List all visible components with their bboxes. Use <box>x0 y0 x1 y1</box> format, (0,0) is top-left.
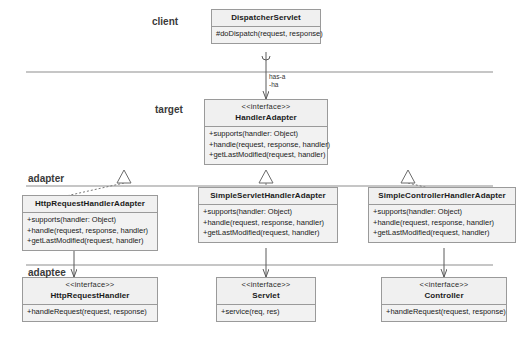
class-member: +supports(handler: Object) <box>203 207 333 218</box>
realization-triangle-middle <box>259 170 273 183</box>
class-box-simple-controller-handler-adapter[interactable]: SimpleControllerHandlerAdapter +supports… <box>368 187 516 243</box>
class-member: #doDispatch(request, response) <box>216 29 316 40</box>
edge-label-has-a-line1: has-a <box>269 73 285 81</box>
edge-label-has-a-line2: -ha <box>269 81 285 89</box>
class-box-servlet[interactable]: <<interface>> Servlet +service(req, res) <box>216 277 316 322</box>
class-member: +handle(request, response, handler) <box>209 140 323 151</box>
class-name-simple-servlet-handler-adapter: SimpleServletHandlerAdapter <box>203 190 333 201</box>
class-stereotype-controller: <<interface>> <box>386 280 502 290</box>
class-stereotype-handler-adapter: <<interface>> <box>209 102 323 112</box>
class-stereotype-http-request-handler: <<interface>> <box>27 280 153 290</box>
realization-triangle-left <box>117 170 131 183</box>
class-header-http-request-handler-adapter: HttpRequestHandlerAdapter <box>23 196 157 212</box>
class-header-http-request-handler: <<interface>> HttpRequestHandler <box>23 278 157 304</box>
class-member: +handle(request, response, handler) <box>373 218 511 229</box>
class-box-controller[interactable]: <<interface>> Controller +handleRequest(… <box>381 277 507 322</box>
class-box-http-request-handler[interactable]: <<interface>> HttpRequestHandler +handle… <box>22 277 158 322</box>
class-box-http-request-handler-adapter[interactable]: HttpRequestHandlerAdapter +supports(hand… <box>22 195 158 251</box>
class-member: +supports(handler: Object) <box>27 215 153 226</box>
class-member: +getLastModified(request, handler) <box>373 228 511 239</box>
class-member: +getLastModified(request, handler) <box>27 236 153 247</box>
class-member: +supports(handler: Object) <box>373 207 511 218</box>
class-name-handler-adapter: HandlerAdapter <box>209 112 323 123</box>
class-members-dispatcher-servlet: #doDispatch(request, response) <box>212 27 320 43</box>
class-members-http-request-handler: +handleRequest(request, response) <box>23 305 157 321</box>
class-header-handler-adapter: <<interface>> HandlerAdapter <box>205 100 327 126</box>
class-name-http-request-handler: HttpRequestHandler <box>27 290 153 301</box>
class-member: +handle(request, response, handler) <box>27 226 153 237</box>
class-members-simple-controller-handler-adapter: +supports(handler: Object) +handle(reque… <box>369 205 515 242</box>
class-member: +supports(handler: Object) <box>209 129 323 140</box>
class-member: +handle(request, response, handler) <box>203 218 333 229</box>
class-name-dispatcher-servlet: DispatcherServlet <box>216 12 316 23</box>
class-members-http-request-handler-adapter: +supports(handler: Object) +handle(reque… <box>23 213 157 250</box>
class-name-controller: Controller <box>386 290 502 301</box>
class-header-dispatcher-servlet: DispatcherServlet <box>212 10 320 26</box>
class-box-handler-adapter[interactable]: <<interface>> HandlerAdapter +supports(h… <box>204 99 328 165</box>
edge-label-has-a: has-a -ha <box>269 73 285 88</box>
class-member: +service(req, res) <box>221 307 311 318</box>
class-name-http-request-handler-adapter: HttpRequestHandlerAdapter <box>27 198 153 209</box>
class-header-simple-controller-handler-adapter: SimpleControllerHandlerAdapter <box>369 188 515 204</box>
class-stereotype-servlet: <<interface>> <box>221 280 311 290</box>
class-members-servlet: +service(req, res) <box>217 305 315 321</box>
zone-label-adaptee: adaptee <box>28 267 66 278</box>
class-members-simple-servlet-handler-adapter: +supports(handler: Object) +handle(reque… <box>199 205 337 242</box>
class-member: +handleRequest(request, response) <box>386 307 502 318</box>
class-member: +getLastModified(request, handler) <box>209 150 323 161</box>
class-member: +handleRequest(request, response) <box>27 307 153 318</box>
class-members-handler-adapter: +supports(handler: Object) +handle(reque… <box>205 127 327 164</box>
class-box-dispatcher-servlet[interactable]: DispatcherServlet #doDispatch(request, r… <box>211 9 321 44</box>
class-box-simple-servlet-handler-adapter[interactable]: SimpleServletHandlerAdapter +supports(ha… <box>198 187 338 243</box>
class-member: +getLastModified(request, handler) <box>203 228 333 239</box>
class-name-simple-controller-handler-adapter: SimpleControllerHandlerAdapter <box>373 190 511 201</box>
zone-label-client: client <box>152 16 178 27</box>
class-header-simple-servlet-handler-adapter: SimpleServletHandlerAdapter <box>199 188 337 204</box>
class-name-servlet: Servlet <box>221 290 311 301</box>
zone-label-adapter: adapter <box>28 173 64 184</box>
class-members-controller: +handleRequest(request, response) <box>382 305 506 321</box>
zone-label-target: target <box>155 104 183 115</box>
realization-triangle-right <box>401 170 415 183</box>
uml-class-diagram: HandlerAdapter : has-a (association w/ o… <box>0 0 519 345</box>
class-header-servlet: <<interface>> Servlet <box>217 278 315 304</box>
class-header-controller: <<interface>> Controller <box>382 278 506 304</box>
